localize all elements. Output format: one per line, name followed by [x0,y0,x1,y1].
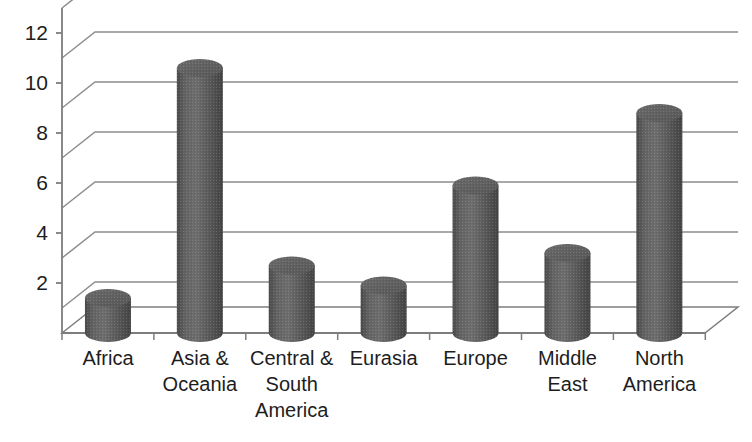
bar [636,104,682,342]
x-axis-category-label: Eurasia [332,345,436,371]
x-axis-category-labels: AfricaAsia & OceaniaCentral & South Amer… [62,345,705,440]
bar [269,257,315,343]
y-axis-tick-label: 8 [0,122,48,143]
x-axis-category-label: Middle East [516,345,620,397]
bar [177,59,223,342]
x-axis-category-label: Europe [424,345,528,371]
y-axis-tick-label: 2 [0,272,48,293]
y-axis-tick-label: 10 [0,72,48,93]
bar-chart: 12108642 AfricaAsia & OceaniaCentral & S… [0,0,752,442]
x-axis-category-label: North America [607,345,711,397]
y-axis-tick-label: 12 [0,22,48,43]
x-axis-category-label: Asia & Oceania [148,345,252,397]
bar [361,277,407,343]
y-axis-tick-label: 6 [0,172,48,193]
y-axis-tick-label: 4 [0,222,48,243]
bar [85,289,131,342]
x-axis-category-label: Africa [56,345,160,371]
bar [453,177,499,343]
x-axis-category-label: Central & South America [240,345,344,423]
bar [544,244,590,342]
bars-group [85,59,682,342]
